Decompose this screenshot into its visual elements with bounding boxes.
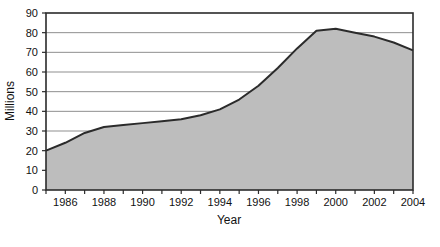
y-tick-label-10: 10 <box>26 164 38 176</box>
x-tick-label-1990: 1990 <box>130 196 154 208</box>
area-chart: 0102030405060708090 19861988199019921994… <box>0 0 440 247</box>
x-tick-label-1994: 1994 <box>208 196 232 208</box>
chart-svg: 0102030405060708090 19861988199019921994… <box>0 0 440 247</box>
y-tick-label-90: 90 <box>26 7 38 19</box>
y-tick-label-50: 50 <box>26 86 38 98</box>
y-axis-title: Millions <box>3 81 17 121</box>
x-tick-label-1992: 1992 <box>169 196 193 208</box>
y-tick-label-30: 30 <box>26 125 38 137</box>
x-tick-label-2004: 2004 <box>401 196 425 208</box>
y-tick-label-0: 0 <box>32 184 38 196</box>
y-tick-label-40: 40 <box>26 105 38 117</box>
x-axis-title: Year <box>217 213 241 227</box>
x-tick-label-2002: 2002 <box>362 196 386 208</box>
x-tick-label-1998: 1998 <box>285 196 309 208</box>
y-tick-label-70: 70 <box>26 46 38 58</box>
x-tick-label-1988: 1988 <box>92 196 116 208</box>
x-tick-label-2000: 2000 <box>323 196 347 208</box>
y-tick-label-80: 80 <box>26 27 38 39</box>
x-tick-label-1996: 1996 <box>246 196 270 208</box>
x-tick-label-1986: 1986 <box>53 196 77 208</box>
y-tick-label-60: 60 <box>26 66 38 78</box>
y-tick-label-20: 20 <box>26 145 38 157</box>
